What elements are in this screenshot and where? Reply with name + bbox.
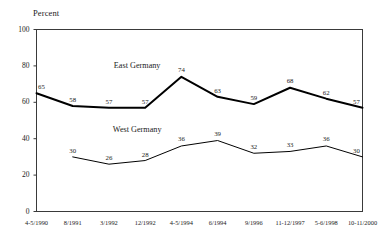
data-label-east-germany: 63 (214, 87, 221, 95)
x-axis-tick-label: 4-5/1990 (25, 219, 48, 227)
x-axis-tick-label: 11-12/1997 (275, 219, 304, 227)
data-label-east-germany: 68 (287, 77, 294, 85)
series-label-west-germany: West Germany (113, 125, 162, 134)
x-axis-tick-label: 8/1991 (64, 219, 82, 227)
y-axis-tick-label: 0 (4, 208, 30, 216)
x-axis-tick-label: 4-5/1994 (170, 219, 193, 227)
data-label-west-germany: 33 (287, 141, 294, 149)
plot-area (0, 0, 389, 240)
data-label-west-germany: 26 (106, 154, 113, 162)
data-label-west-germany: 32 (250, 143, 257, 151)
y-axis-tick-label: 80 (4, 62, 30, 70)
data-label-west-germany: 28 (142, 151, 149, 159)
y-axis-tick-label: 60 (4, 98, 30, 106)
data-label-east-germany: 57 (106, 98, 113, 106)
x-axis-tick-label: 12/1992 (135, 219, 156, 227)
data-label-west-germany: 39 (214, 130, 221, 138)
data-label-east-germany: 57 (142, 98, 149, 106)
data-label-east-germany: 59 (250, 94, 257, 102)
x-axis-tick-label: 6/1994 (209, 219, 227, 227)
x-axis-tick-label: 3/1992 (100, 219, 118, 227)
y-axis-tick-label: 20 (4, 171, 30, 179)
y-axis-tick-label: 100 (4, 26, 30, 34)
data-label-west-germany: 36 (178, 135, 185, 143)
data-label-west-germany: 36 (323, 135, 330, 143)
data-label-east-germany: 65 (38, 83, 45, 91)
series-label-east-germany: East Germany (114, 61, 161, 70)
data-label-east-germany: 57 (353, 98, 360, 106)
data-label-east-germany: 58 (69, 96, 76, 104)
data-label-east-germany: 62 (323, 89, 330, 97)
x-axis-tick-label: 10-11/2000 (348, 219, 377, 227)
line-chart: Percent 100806040200 4-5/19908/19913/199… (0, 0, 389, 240)
data-label-west-germany: 30 (69, 147, 76, 155)
plot-frame (37, 30, 363, 212)
x-axis-tick-label: 9/1996 (245, 219, 263, 227)
series-line-east-germany (37, 77, 363, 108)
data-label-west-germany: 30 (353, 147, 360, 155)
series-line-west-germany (73, 141, 363, 165)
data-label-east-germany: 74 (178, 66, 185, 74)
y-axis-tick-label: 40 (4, 135, 30, 143)
x-axis-tick-label: 5-6/1998 (315, 219, 338, 227)
